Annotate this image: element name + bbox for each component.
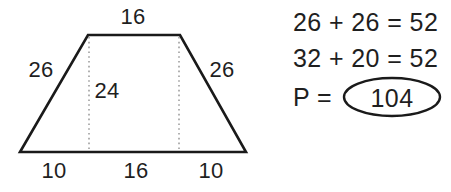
label-top-side: 16 [121, 6, 146, 28]
calculation-line-1: 26 + 26 = 52 [293, 10, 438, 35]
label-left-slant: 26 [29, 59, 54, 81]
label-height: 24 [95, 80, 120, 102]
calculation-line-2: 32 + 20 = 52 [293, 46, 438, 71]
perimeter-result-value: 104 [371, 86, 414, 111]
label-bottom-left-segment: 10 [42, 160, 67, 182]
label-bottom-middle-segment: 16 [124, 160, 149, 182]
perimeter-result-label: P = [293, 85, 332, 110]
worksheet-figure: 16 26 26 24 10 16 10 26 + 26 = 52 32 + 2… [0, 0, 451, 192]
trapezoid-shape [20, 35, 246, 152]
label-bottom-right-segment: 10 [199, 160, 224, 182]
label-right-slant: 26 [210, 59, 235, 81]
